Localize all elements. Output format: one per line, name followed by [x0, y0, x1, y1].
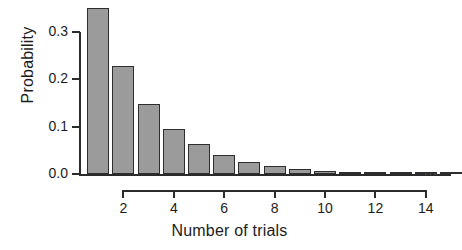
x-tick-mark: [173, 190, 175, 198]
bar: [238, 162, 260, 174]
x-tick-label: 8: [255, 200, 295, 216]
bar: [188, 144, 210, 174]
bar: [87, 8, 109, 174]
x-tick-mark: [274, 190, 276, 198]
bar: [264, 166, 286, 174]
tail-ellipsis-annotation: ...: [424, 168, 438, 174]
x-tick-mark: [374, 190, 376, 198]
x-tick-label: 12: [355, 200, 395, 216]
x-axis-title: Number of trials: [0, 222, 459, 240]
bar: [163, 129, 185, 174]
x-tick-mark: [223, 190, 225, 198]
x-tick-label: 14: [406, 200, 446, 216]
x-tick-label: 6: [204, 200, 244, 216]
x-tick-label: 4: [154, 200, 194, 216]
plot-baseline: [79, 174, 451, 176]
x-tick-mark: [122, 190, 124, 198]
x-tick-label: 10: [305, 200, 345, 216]
x-tick-mark: [324, 190, 326, 198]
x-tick-mark: [425, 190, 427, 198]
bar: [138, 104, 160, 174]
bar: [213, 155, 235, 174]
bar: [112, 66, 134, 174]
x-tick-label: 2: [103, 200, 143, 216]
